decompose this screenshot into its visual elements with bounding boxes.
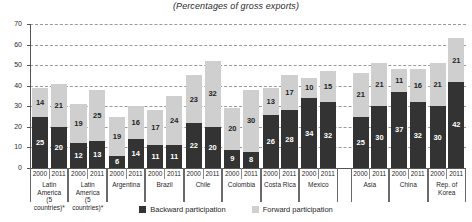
x-axis-year-label: 2011 <box>408 168 427 179</box>
x-axis-group: 20002011Latin America (5 countries)* <box>68 168 106 202</box>
bar-segment-backward: 8 <box>243 152 259 168</box>
x-axis-year-row: 20002011 <box>146 168 182 179</box>
bar-segment-forward: 21 <box>353 73 369 116</box>
bar-segment-backward: 34 <box>301 98 317 168</box>
bar-segment-backward: 9 <box>224 150 240 169</box>
bar-stack: 1614 <box>128 106 144 168</box>
ytick-label-60: 60 <box>2 41 22 48</box>
ytick-label-0: 0 <box>2 164 22 171</box>
x-axis-group: 20002011Chile <box>184 168 222 202</box>
bars-layer: 1425212019122513196161417112411232232202… <box>30 24 466 168</box>
bar-segment-backward: 14 <box>128 139 144 168</box>
x-axis-group: 20002011Asia <box>351 168 389 202</box>
legend-label-backward: Backward participation <box>150 205 225 214</box>
bar-segment-backward: 13 <box>89 141 105 168</box>
x-axis-group-label: Argentina <box>108 179 144 189</box>
bar-stack: 1728 <box>281 75 297 168</box>
bar-segment-forward: 21 <box>448 38 464 81</box>
x-axis-year-label: 2000 <box>429 168 447 179</box>
bar-segment-forward: 30 <box>243 90 259 152</box>
x-axis-group: 20002011Latin America (5 countries)* <box>30 168 68 202</box>
bar-stack: 1034 <box>301 78 317 169</box>
ytick-label-30: 30 <box>2 102 22 109</box>
x-axis-year-label: 2000 <box>300 168 318 179</box>
ytick-label-50: 50 <box>2 61 22 68</box>
x-axis-group: 20002011Colombia <box>222 168 260 202</box>
bar-stack: 2411 <box>166 96 182 168</box>
chart-container: (Percentages of gross exports) 142521201… <box>0 0 472 222</box>
bar-stack: 308 <box>243 90 259 168</box>
bar-stack: 196 <box>109 117 125 168</box>
bar-segment-backward: 28 <box>281 110 297 168</box>
x-axis-group-label: Brazil <box>146 179 182 189</box>
legend-label-forward: Forward participation <box>263 205 333 214</box>
bar-segment-forward: 19 <box>109 117 125 156</box>
x-axis-group-label: Chile <box>185 179 221 189</box>
bar-segment-forward: 21 <box>430 63 446 106</box>
bar-stack: 209 <box>224 108 240 168</box>
x-axis-year-row: 20002011 <box>429 168 465 179</box>
x-axis-year-label: 2011 <box>241 168 260 179</box>
x-axis-year-label: 2000 <box>223 168 241 179</box>
x-axis-year-label: 2000 <box>31 168 49 179</box>
bar-stack: 1632 <box>410 69 426 168</box>
bar-stack: 2130 <box>430 63 446 168</box>
x-axis-year-row: 20002011 <box>223 168 259 179</box>
chart-title: (Percentages of gross exports) <box>0 1 472 11</box>
bar-segment-backward: 32 <box>410 102 426 168</box>
bar-segment-backward: 11 <box>147 145 163 168</box>
x-axis-year-row: 20002011 <box>185 168 221 179</box>
bar-segment-backward: 22 <box>186 123 202 168</box>
x-axis-year-label: 2011 <box>446 168 465 179</box>
bar-segment-forward: 16 <box>128 106 144 139</box>
ytick-label-70: 70 <box>2 20 22 27</box>
legend-item-forward: Forward participation <box>252 205 333 214</box>
bar-segment-forward: 17 <box>147 110 163 145</box>
x-axis-group: 20002011China <box>389 168 427 202</box>
x-axis-year-row: 20002011 <box>300 168 336 179</box>
bar-segment-forward: 16 <box>410 69 426 102</box>
x-axis-year-label: 2011 <box>369 168 388 179</box>
x-axis-year-label: 2000 <box>146 168 164 179</box>
chart-legend: Backward participation Forward participa… <box>0 205 472 214</box>
x-axis-year-row: 20002011 <box>69 168 105 179</box>
x-axis-year-label: 2000 <box>352 168 370 179</box>
bar-segment-forward: 11 <box>391 69 407 92</box>
bar-segment-forward: 14 <box>32 88 48 117</box>
bar-stack: 1137 <box>391 69 407 168</box>
x-axis-group-label: Mexico <box>300 179 336 189</box>
bar-segment-backward: 37 <box>391 92 407 168</box>
bar-stack: 2125 <box>353 73 369 168</box>
bar-segment-backward: 20 <box>205 127 221 168</box>
x-axis-year-row: 20002011 <box>262 168 298 179</box>
legend-swatch-backward <box>139 206 146 213</box>
x-axis-group-label: Costa Rica <box>262 179 298 189</box>
x-axis-year-label: 2000 <box>390 168 408 179</box>
x-axis-group-label: Rep. of Korea <box>429 179 465 196</box>
bar-stack: 1711 <box>147 110 163 168</box>
x-axis-group: 20002011Mexico <box>299 168 337 202</box>
x-axis-group-label: Colombia <box>223 179 259 189</box>
bar-segment-forward: 25 <box>89 90 105 141</box>
bar-segment-forward: 13 <box>263 88 279 115</box>
bar-stack: 2130 <box>371 63 387 168</box>
bar-segment-forward: 24 <box>166 96 182 145</box>
x-axis-year-label: 2011 <box>126 168 145 179</box>
bar-stack: 2120 <box>51 84 67 168</box>
bar-stack: 2142 <box>448 38 464 168</box>
bar-segment-forward: 20 <box>224 108 240 149</box>
x-axis-year-label: 2011 <box>279 168 298 179</box>
bar-stack: 2322 <box>186 75 202 168</box>
x-axis-year-label: 2000 <box>262 168 280 179</box>
bar-segment-backward: 11 <box>166 145 182 168</box>
ytick-label-20: 20 <box>2 123 22 130</box>
bar-stack: 2513 <box>89 90 105 168</box>
x-axis-year-row: 20002011 <box>31 168 67 179</box>
x-axis-year-label: 2000 <box>185 168 203 179</box>
bar-segment-forward: 10 <box>301 78 317 99</box>
x-axis-group: 20002011Argentina <box>107 168 145 202</box>
bar-segment-backward: 12 <box>70 143 86 168</box>
bar-segment-forward: 19 <box>70 104 86 143</box>
bar-segment-forward: 21 <box>51 84 67 127</box>
bar-segment-backward: 25 <box>32 117 48 168</box>
